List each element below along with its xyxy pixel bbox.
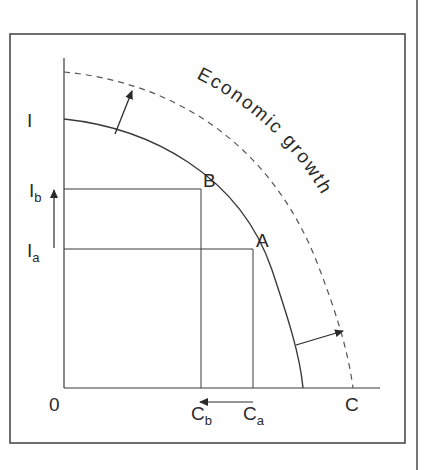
point-label-A: A <box>256 230 269 251</box>
tick-label-Ca: Ca <box>243 403 265 428</box>
ppf-curve-original <box>64 119 303 388</box>
tick-label-Cb-main: C <box>191 403 205 424</box>
tick-label-Ca-main: C <box>243 403 257 424</box>
tick-label-Cb-sub: b <box>205 413 212 428</box>
shift-arrow-right-icon <box>296 331 343 345</box>
y-axis-label: I <box>27 110 32 131</box>
point-label-B: B <box>203 170 216 191</box>
tick-label-Ib: Ib <box>29 180 42 205</box>
tick-label-Ib-sub: b <box>34 190 41 205</box>
tick-label-Cb: Cb <box>191 403 212 428</box>
origin-label: 0 <box>49 394 60 415</box>
shift-arrow-top-icon <box>115 91 132 134</box>
tick-label-Ia-sub: a <box>32 250 40 265</box>
tick-label-Ia: Ia <box>27 240 40 265</box>
figure-frame <box>10 34 405 443</box>
ppf-diagram: I 0 C Ib Ia Cb Ca B A Economic growth <box>0 0 428 470</box>
x-axis-label: C <box>345 394 359 415</box>
tick-label-Ca-sub: a <box>257 413 265 428</box>
